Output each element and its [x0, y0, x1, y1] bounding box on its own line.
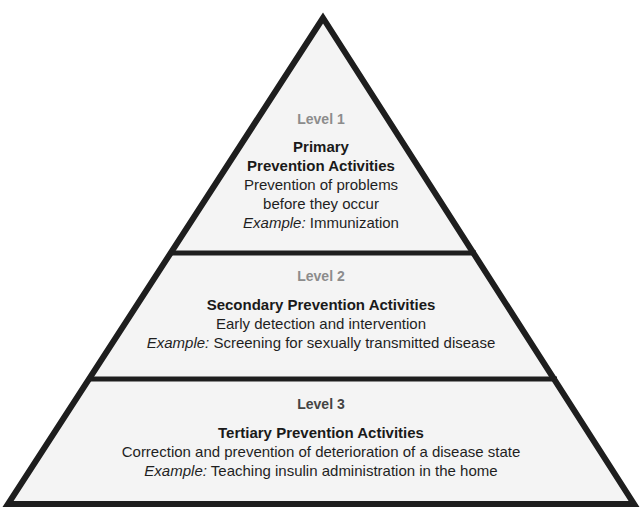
tier-description: Correction and prevention of deteriorati… — [0, 442, 642, 461]
example-text: Immunization — [306, 214, 399, 231]
example-label: Example: — [147, 334, 210, 351]
level-label: Level 2 — [0, 267, 642, 285]
tier-title: Primary — [0, 137, 642, 156]
level-label: Level 1 — [0, 110, 642, 128]
level-label: Level 3 — [0, 395, 642, 413]
tier-title: Prevention Activities — [0, 156, 642, 175]
tier-example: Example: Teaching insulin administration… — [0, 461, 642, 480]
tier-level-2: Level 2 Secondary Prevention Activities … — [0, 267, 642, 352]
tier-title: Tertiary Prevention Activities — [0, 423, 642, 442]
tier-description: Early detection and intervention — [0, 314, 642, 333]
tier-description: before they occur — [0, 194, 642, 213]
example-label: Example: — [243, 214, 306, 231]
tier-example: Example: Screening for sexually transmit… — [0, 333, 642, 352]
tier-level-1: Level 1 Primary Prevention Activities Pr… — [0, 110, 642, 232]
tier-description: Prevention of problems — [0, 175, 642, 194]
example-text: Screening for sexually transmitted disea… — [209, 334, 495, 351]
tier-example: Example: Immunization — [0, 213, 642, 232]
tier-title: Secondary Prevention Activities — [0, 295, 642, 314]
tier-level-3: Level 3 Tertiary Prevention Activities C… — [0, 395, 642, 480]
example-label: Example: — [144, 462, 207, 479]
example-text: Teaching insulin administration in the h… — [207, 462, 498, 479]
